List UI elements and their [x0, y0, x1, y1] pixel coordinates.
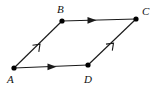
vertex-dot-d	[85, 62, 90, 67]
geometry-figure-canvas: A B C D	[0, 0, 156, 86]
vertex-dot-c	[133, 16, 138, 21]
parallelogram-diagram: A B C D	[0, 0, 156, 86]
edge-d-to-c	[88, 19, 136, 65]
vertex-label-c: C	[142, 5, 150, 17]
vertex-label-d: D	[83, 73, 92, 85]
vertex-dot-b	[59, 18, 64, 23]
edge-b-to-c	[62, 19, 136, 21]
vertex-dot-group	[11, 16, 138, 70]
arrowhead-a-to-d-icon	[48, 63, 57, 70]
arrowhead-b-to-c-icon	[88, 17, 97, 24]
edge-group	[14, 19, 136, 68]
arrowhead-group	[33, 17, 114, 70]
vertex-dot-a	[11, 65, 16, 70]
vertex-label-group: A B C D	[6, 3, 150, 85]
vertex-label-a: A	[6, 73, 14, 85]
vertex-label-b: B	[57, 3, 64, 15]
